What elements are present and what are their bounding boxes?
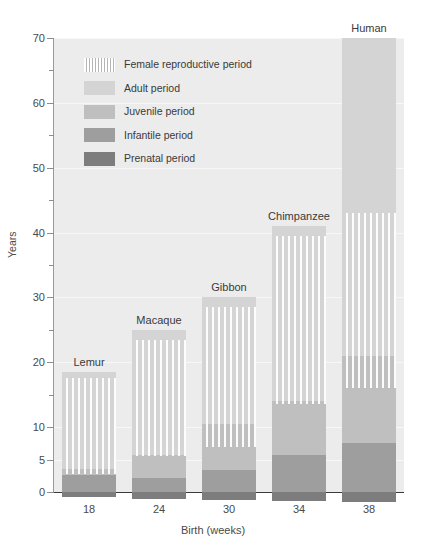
hatch-pattern-icon xyxy=(84,58,115,72)
bar-label-gibbon: Gibbon xyxy=(211,281,246,293)
y-tick-label: 0 xyxy=(39,486,45,498)
y-tick-minor xyxy=(49,200,54,201)
y-tick-minor xyxy=(49,135,54,136)
x-tick-label: 30 xyxy=(223,503,235,515)
bar-segment-prenatal xyxy=(272,492,326,501)
bar-label-human: Human xyxy=(351,22,386,34)
bar-macaque xyxy=(132,330,186,492)
legend-label: Adult period xyxy=(124,83,180,94)
female-reproductive-hatch xyxy=(272,236,326,405)
female-reproductive-hatch xyxy=(132,340,186,457)
y-tick-label: 10 xyxy=(33,421,45,433)
y-tick-label: 50 xyxy=(33,162,45,174)
bar-lemur xyxy=(62,372,116,492)
x-tick-label: 38 xyxy=(363,503,375,515)
female-reproductive-hatch xyxy=(62,378,116,473)
y-tick-label: 70 xyxy=(33,32,45,44)
bar-segment-infantile xyxy=(272,455,326,492)
bar-segment-infantile xyxy=(62,475,116,492)
y-tick-minor xyxy=(49,395,54,396)
legend-item: Female reproductive period xyxy=(84,57,252,72)
x-axis-title: Birth (weeks) xyxy=(0,524,426,536)
bar-segment-prenatal xyxy=(62,492,116,497)
legend-label: Juvenile period xyxy=(124,106,195,117)
infantile-swatch-icon xyxy=(84,128,115,142)
y-tick-minor xyxy=(49,70,54,71)
x-tick-label: 18 xyxy=(83,503,95,515)
y-tick-major xyxy=(47,103,54,104)
legend-label: Prenatal period xyxy=(124,153,195,164)
y-tick-minor xyxy=(49,330,54,331)
bar-segment-prenatal xyxy=(342,492,396,502)
x-tick-label: 34 xyxy=(293,503,305,515)
female-reproductive-hatch xyxy=(342,213,396,388)
y-tick-major xyxy=(47,168,54,169)
legend-item: Juvenile period xyxy=(84,104,252,119)
y-tick-major xyxy=(47,362,54,363)
y-tick-label: 30 xyxy=(33,291,45,303)
legend-item: Infantile period xyxy=(84,128,252,143)
y-tick-label: 60 xyxy=(33,97,45,109)
y-tick-major xyxy=(47,38,54,39)
y-axis-title: Years xyxy=(6,232,18,258)
bar-label-chimpanzee: Chimpanzee xyxy=(268,210,330,222)
prenatal-swatch-icon xyxy=(84,152,115,166)
juvenile-swatch-icon xyxy=(84,105,115,119)
legend-item: Adult period xyxy=(84,81,252,96)
y-tick-label: 40 xyxy=(33,227,45,239)
bar-human xyxy=(342,38,396,492)
y-tick-major xyxy=(47,427,54,428)
bar-segment-infantile xyxy=(132,478,186,492)
y-tick-major xyxy=(47,297,54,298)
bar-segment-infantile xyxy=(342,443,396,492)
y-tick-label: 20 xyxy=(33,356,45,368)
y-tick-label: 5 xyxy=(39,454,45,466)
bar-label-macaque: Macaque xyxy=(136,314,181,326)
chart-legend: Female reproductive periodAdult periodJu… xyxy=(84,57,252,175)
bar-gibbon xyxy=(202,297,256,492)
bar-segment-prenatal xyxy=(132,492,186,499)
bar-segment-prenatal xyxy=(202,492,256,500)
bar-segment-infantile xyxy=(202,470,256,492)
x-tick-label: 24 xyxy=(153,503,165,515)
bar-segment-juvenile xyxy=(272,401,326,455)
bar-segment-juvenile xyxy=(132,455,186,478)
bar-chimpanzee xyxy=(272,226,326,492)
y-tick-major xyxy=(47,233,54,234)
y-tick-major xyxy=(47,460,54,461)
chart-root: Years Birth (weeks) 0510203040506070 Lem… xyxy=(0,0,426,551)
legend-item: Prenatal period xyxy=(84,151,252,166)
adult-swatch-icon xyxy=(84,81,115,95)
female-reproductive-hatch xyxy=(202,307,256,446)
y-tick-major xyxy=(47,492,54,493)
legend-label: Female reproductive period xyxy=(124,59,252,70)
y-tick-minor xyxy=(49,265,54,266)
bar-label-lemur: Lemur xyxy=(73,356,104,368)
legend-label: Infantile period xyxy=(124,130,193,141)
